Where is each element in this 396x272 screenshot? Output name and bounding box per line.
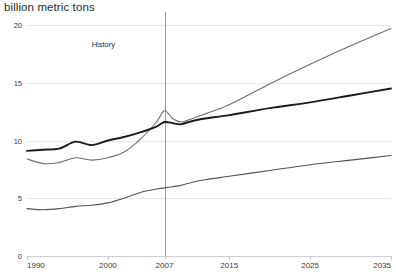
series-line-oecd — [27, 89, 391, 151]
x-tick-mark-2035 — [391, 256, 392, 260]
chart-container: billion metric tons 05101520 19902000200… — [0, 0, 396, 272]
y-tick-label-5: 5 — [18, 194, 22, 203]
y-tick-label-0: 0 — [18, 252, 22, 261]
x-tick-label-2007: 2007 — [156, 261, 174, 270]
x-tick-mark-2025 — [310, 256, 311, 260]
x-tick-label-2000: 2000 — [99, 261, 117, 270]
y-tick-label-10: 10 — [14, 136, 22, 145]
x-tick-label-2025: 2025 — [301, 261, 319, 270]
gridline-y-0 — [27, 256, 391, 257]
series-line-coal — [27, 156, 391, 210]
x-tick-label-2035: 2035 — [373, 261, 391, 270]
x-tick-mark-1990 — [27, 256, 28, 260]
x-tick-mark-2015 — [229, 256, 230, 260]
plot-area: 05101520 199020002007201520252035 Histor… — [27, 25, 391, 256]
x-tick-mark-2000 — [108, 256, 109, 260]
y-tick-label-15: 15 — [14, 78, 22, 87]
x-tick-label-2015: 2015 — [220, 261, 238, 270]
series-lines — [27, 25, 391, 256]
y-axis-unit-label: billion metric tons — [4, 1, 95, 14]
y-tick-label-20: 20 — [14, 21, 22, 30]
x-tick-mark-2007 — [165, 256, 166, 260]
x-tick-label-1990: 1990 — [27, 261, 45, 270]
